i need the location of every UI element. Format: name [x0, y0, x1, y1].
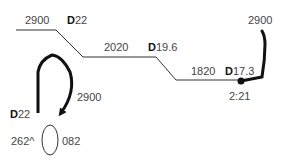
segment-2-heading: D19.6 [148, 41, 177, 53]
dme-prefix: D [67, 14, 75, 26]
hold-heading: D22 [10, 108, 30, 120]
hold-entry-distance: 2900 [77, 91, 101, 103]
heading-value: 22 [18, 108, 30, 120]
segment-2-distance: 2020 [104, 41, 128, 53]
waypoint-dot [238, 78, 245, 85]
segment-3-distance: 1820 [191, 65, 215, 77]
heading-value: 22 [75, 14, 87, 26]
hold-entry-track [38, 55, 72, 113]
segment-1-heading: D22 [67, 14, 87, 26]
dme-prefix: D [225, 65, 233, 77]
dme-prefix: D [148, 41, 156, 53]
final-turn-time: 2:21 [229, 90, 250, 102]
hold-pattern [42, 125, 58, 155]
hold-outbound-course: 082 [62, 135, 80, 147]
heading-value: 19.6 [156, 41, 177, 53]
dme-prefix: D [10, 108, 18, 120]
route-diagram: 2900 D22 2020 D19.6 1820 D17.3 2900 2:21… [0, 0, 284, 164]
segment-3-heading: D17.3 [225, 65, 254, 77]
segment-1-distance: 2900 [25, 14, 49, 26]
heading-value: 17.3 [233, 65, 254, 77]
hold-inbound-course: 262^ [11, 135, 35, 147]
final-turn-distance: 2900 [248, 14, 272, 26]
